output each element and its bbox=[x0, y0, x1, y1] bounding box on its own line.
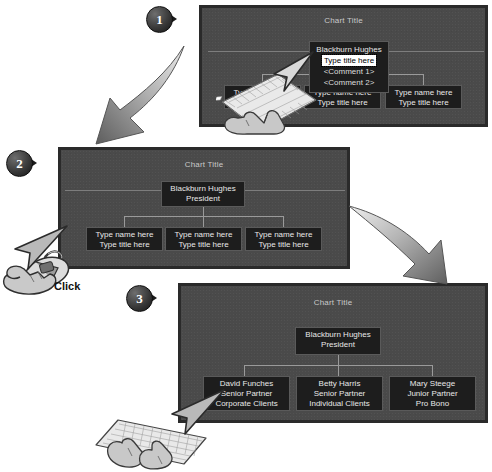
panel-1-connector-drop-3 bbox=[423, 74, 424, 85]
step-badge-2: 2 bbox=[6, 150, 36, 180]
panel-2-child-node-2[interactable]: Type name here Type title here bbox=[165, 227, 242, 251]
panel-1-child-3-name: Type name here bbox=[389, 88, 458, 98]
flow-arrow-2-icon bbox=[345, 196, 457, 290]
panel-2-mouse-pointer-icon bbox=[12, 222, 70, 278]
panel-2-root-title: President bbox=[165, 194, 241, 204]
panel-3-connector-drop-2 bbox=[338, 365, 339, 376]
panel-2-connector-drop-1 bbox=[124, 216, 125, 227]
panel-3-child-3-title: Junior Partner bbox=[393, 389, 472, 399]
flow-arrow-1-icon bbox=[86, 36, 198, 148]
panel-2-connector-drop-3 bbox=[283, 216, 284, 227]
step-number-2: 2 bbox=[6, 150, 33, 177]
panel-2-connector-stem bbox=[203, 207, 204, 216]
step-badge-3: 3 bbox=[126, 285, 156, 315]
panel-1-root-node-editing[interactable]: Blackburn Hughes Type title here <Commen… bbox=[309, 41, 389, 93]
panel-2-child-node-1[interactable]: Type name here Type title here bbox=[86, 227, 163, 251]
panel-2-child-3-title: Type title here bbox=[249, 240, 318, 250]
panel-3-chart-title: Chart Title bbox=[181, 298, 485, 307]
instructional-figure: 1 Chart Title Type name here Type title … bbox=[0, 0, 492, 472]
panel-1-mouse-pointer-icon bbox=[270, 50, 316, 94]
panel-2-root-name: Blackburn Hughes bbox=[165, 184, 241, 194]
panel-1-child-node-3[interactable]: Type name here Type title here bbox=[385, 85, 462, 109]
panel-3-child-2-title: Senior Partner bbox=[300, 389, 379, 399]
step-number-1: 1 bbox=[146, 6, 173, 33]
panel-3-connector-drop-3 bbox=[432, 365, 433, 376]
panel-1-root-comment-2[interactable]: <Comment 2> bbox=[313, 77, 385, 88]
panel-3-mouse-pointer-icon bbox=[168, 386, 228, 444]
panel-3-root-title: President bbox=[299, 340, 377, 350]
step-number-3: 3 bbox=[126, 285, 153, 312]
panel-1-root-comment-1[interactable]: <Comment 1> bbox=[313, 66, 385, 77]
panel-1-root-title-field[interactable]: Type title here bbox=[313, 55, 385, 66]
panel-3-child-3-detail: Pro Bono bbox=[393, 399, 472, 409]
panel-2-child-3-name: Type name here bbox=[249, 230, 318, 240]
panel-3-connector-drop-1 bbox=[244, 365, 245, 376]
click-label: Click bbox=[54, 280, 80, 292]
panel-2-child-2-title: Type title here bbox=[169, 240, 238, 250]
panel-2-root-node[interactable]: Blackburn Hughes President bbox=[161, 181, 245, 207]
panel-1-root-title-selected-text: Type title here bbox=[322, 55, 376, 66]
panel-2-child-node-3[interactable]: Type name here Type title here bbox=[245, 227, 322, 251]
panel-2-child-1-name: Type name here bbox=[90, 230, 159, 240]
panel-2-connector-drop-2 bbox=[203, 216, 204, 227]
step-badge-1: 1 bbox=[146, 6, 176, 36]
panel-2-child-2-name: Type name here bbox=[169, 230, 238, 240]
panel-2-chart-title: Chart Title bbox=[61, 160, 347, 169]
panel-1-child-3-title: Type title here bbox=[389, 98, 458, 108]
panel-1-chart-title: Chart Title bbox=[202, 16, 485, 25]
panel-3-child-2-detail: Individual Clients bbox=[300, 399, 379, 409]
panel-1-root-name: Blackburn Hughes bbox=[313, 44, 385, 55]
panel-2-child-1-title: Type title here bbox=[90, 240, 159, 250]
panel-3-connector-stem bbox=[338, 355, 339, 365]
panel-3-root-name: Blackburn Hughes bbox=[299, 330, 377, 340]
panel-3-child-3-name: Mary Steege bbox=[393, 379, 472, 389]
panel-3-child-node-3[interactable]: Mary Steege Junior Partner Pro Bono bbox=[389, 376, 476, 411]
panel-3-child-node-2[interactable]: Betty Harris Senior Partner Individual C… bbox=[296, 376, 383, 411]
panel-3-child-2-name: Betty Harris bbox=[300, 379, 379, 389]
panel-3-root-node[interactable]: Blackburn Hughes President bbox=[295, 327, 381, 355]
panel-2: Chart Title Blackburn Hughes President T… bbox=[58, 147, 350, 269]
